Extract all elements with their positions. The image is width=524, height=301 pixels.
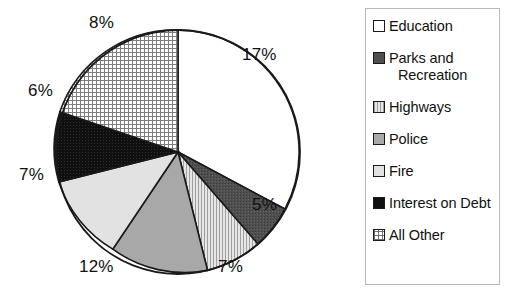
legend-item-highways[interactable]: Highways [373, 99, 499, 117]
legend-swatch-interest-on-debt [373, 197, 385, 209]
legend-swatch-fire [373, 165, 385, 177]
pie-chart-svg [0, 0, 356, 301]
legend-item-police[interactable]: Police [373, 131, 499, 149]
legend: Education Parks and Recreation Highways … [365, 8, 500, 285]
legend-label-parks-line2: Recreation [389, 67, 467, 84]
legend-list: Education Parks and Recreation Highways … [373, 18, 499, 245]
pie-chart-figure: 17% 5% 7% 12% 7% 6% 8% Education Parks a… [0, 0, 524, 301]
legend-label-all-other: All Other [389, 227, 445, 244]
legend-label-education: Education [389, 18, 453, 35]
legend-item-interest-on-debt[interactable]: Interest on Debt [373, 195, 499, 213]
slice-label-education: 17% [242, 46, 277, 63]
slice-label-all-other: 8% [89, 14, 114, 31]
pie-chart-area: 17% 5% 7% 12% 7% 6% 8% [0, 0, 356, 301]
legend-label-highways: Highways [389, 99, 451, 116]
legend-label-police: Police [389, 131, 428, 148]
legend-swatch-highways [373, 101, 385, 113]
legend-item-education[interactable]: Education [373, 18, 499, 36]
slice-label-fire: 7% [19, 166, 44, 183]
legend-swatch-all-other [373, 229, 385, 241]
legend-label-parks-and-recreation: Parks and Recreation [389, 50, 467, 85]
legend-label-parks-line1: Parks and [389, 50, 453, 66]
legend-swatch-parks-and-recreation [373, 52, 385, 64]
slice-label-police: 12% [79, 258, 114, 275]
slice-label-parks-and-recreation: 5% [252, 196, 277, 213]
legend-item-fire[interactable]: Fire [373, 163, 499, 181]
legend-swatch-police [373, 133, 385, 145]
legend-item-parks-and-recreation[interactable]: Parks and Recreation [373, 50, 499, 85]
legend-label-fire: Fire [389, 163, 414, 180]
legend-label-interest-on-debt: Interest on Debt [389, 195, 491, 212]
slice-label-interest-on-debt: 6% [28, 82, 53, 99]
legend-item-all-other[interactable]: All Other [373, 227, 499, 245]
legend-swatch-education [373, 20, 385, 32]
slice-label-highways: 7% [218, 258, 243, 275]
